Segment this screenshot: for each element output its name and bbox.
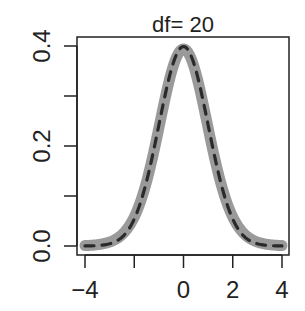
t-density-line [85,49,282,246]
series-group [85,47,282,246]
x-tick-label: 0 [177,276,190,303]
chart-title: df= 20 [152,12,214,37]
y-axis: 0.00.20.4 [28,29,77,262]
y-tick-label: 0.2 [28,129,55,162]
x-tick-label: 4 [275,276,288,303]
normal-density-dashed-line [85,47,282,246]
x-tick-label: −4 [71,276,98,303]
y-tick-label: 0.4 [28,29,55,62]
y-tick-label: 0.0 [28,229,55,262]
x-tick-label: 2 [226,276,239,303]
chart: df= 20 −4024 0.00.20.4 [0,0,305,311]
plot-box [77,37,289,255]
x-axis: −4024 [71,255,288,303]
